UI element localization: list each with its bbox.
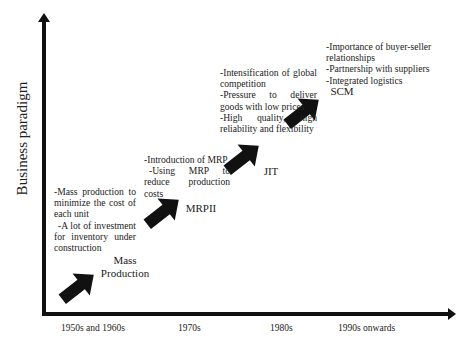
stage-label-mrpii: MRPII bbox=[176, 202, 226, 215]
y-axis-arrowhead-icon bbox=[38, 13, 50, 22]
stage-label-jit: JIT bbox=[256, 165, 286, 178]
x-tick-1980s: 1980s bbox=[270, 323, 293, 333]
note-line: -Intensification of global competition bbox=[220, 67, 317, 89]
y-axis-label: Business paradigm bbox=[14, 79, 31, 199]
note-line: -A lot of investment for inventory under… bbox=[54, 220, 136, 254]
stage-label-scm: SCM bbox=[322, 85, 362, 98]
stage-notes-jit: -Intensification of global competition -… bbox=[220, 67, 317, 134]
stage-notes-scm: -Importance of buyer-seller relationship… bbox=[326, 41, 438, 86]
note-line: -Importance of buyer-seller relationship… bbox=[326, 41, 438, 63]
x-tick-1950s-1960s: 1950s and 1960s bbox=[61, 323, 125, 333]
x-tick-1990s-onwards: 1990s onwards bbox=[338, 323, 395, 333]
stage-label-mass-production: Mass Production bbox=[94, 254, 156, 280]
note-line: -Introduction of MRP bbox=[144, 154, 230, 165]
note-line: -High quality, high reliability and flex… bbox=[220, 112, 317, 134]
note-line: -Pressure to deliver goods with low pric… bbox=[220, 89, 317, 111]
x-axis-arrowhead-icon bbox=[448, 308, 456, 320]
stage-notes-mrpii: -Introduction of MRP -Using MRP to reduc… bbox=[144, 154, 230, 199]
x-tick-1970s: 1970s bbox=[178, 323, 201, 333]
note-line: -Using MRP to reduce production costs bbox=[144, 165, 230, 199]
note-line: -Mass production to minimize the cost of… bbox=[54, 186, 136, 220]
note-line: -Partnership with suppliers bbox=[326, 63, 438, 74]
stage-notes-mass-production: -Mass production to minimize the cost of… bbox=[54, 186, 136, 253]
